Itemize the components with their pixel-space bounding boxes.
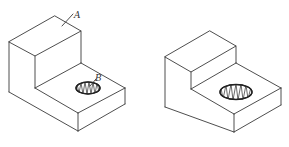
threaded-hole-b (76, 82, 100, 94)
label-a: A (73, 10, 81, 20)
drawing-canvas: A B (0, 0, 289, 147)
label-b: B (94, 73, 102, 83)
threaded-hole (220, 84, 252, 100)
left-figure: A B (9, 10, 125, 131)
right-figure (165, 31, 281, 132)
left-top-face-a (9, 16, 81, 56)
leader-a (62, 14, 73, 26)
